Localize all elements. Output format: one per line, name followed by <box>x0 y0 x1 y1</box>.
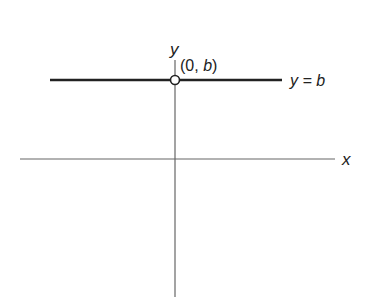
y-intercept-point <box>171 76 180 85</box>
y-axis-label: y <box>169 40 180 59</box>
line-equation-label: y = b <box>289 72 325 89</box>
point-label-open: (0, <box>180 57 203 74</box>
point-label: (0, b) <box>180 57 217 74</box>
coordinate-plane: y x y = b (0, b) <box>0 0 371 307</box>
x-axis-label: x <box>341 150 351 169</box>
point-label-close: ) <box>212 57 217 74</box>
point-label-var: b <box>203 57 212 74</box>
